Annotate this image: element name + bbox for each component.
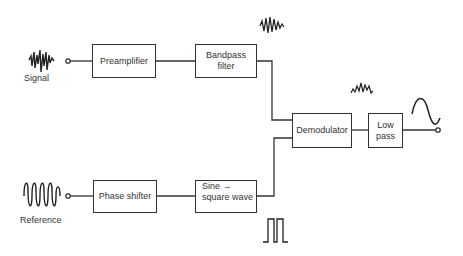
low-pass-label-line2: pass (376, 131, 395, 142)
low-pass-block[interactable]: Low pass (368, 113, 403, 148)
sine-square-label-line2: square wave (202, 192, 253, 203)
bandpass-label-line2: filter (217, 61, 234, 72)
wire-square-demodulator (257, 138, 292, 196)
square-pulse-waveform-icon (263, 219, 288, 242)
signal-input-terminal[interactable] (66, 59, 70, 63)
bandpass-filter-block[interactable]: Bandpass filter (195, 44, 257, 78)
noisy-signal-waveform-icon (29, 50, 54, 72)
sine-output-waveform-icon (412, 98, 440, 124)
demodulator-label: Demodulator (296, 125, 348, 136)
sine-to-square-block[interactable]: Sine → square wave (195, 180, 257, 213)
sine-square-label-line1: Sine → (202, 181, 232, 192)
reference-label: Reference (20, 215, 62, 225)
filtered-burst-waveform-icon (260, 17, 284, 33)
rectified-waveform-icon (351, 83, 373, 93)
output-terminal[interactable] (436, 128, 440, 132)
demodulator-block[interactable]: Demodulator (292, 113, 352, 148)
phase-shifter-label: Phase shifter (99, 191, 152, 202)
reference-input-terminal[interactable] (66, 194, 70, 198)
preamplifier-block[interactable]: Preamplifier (92, 44, 156, 78)
low-pass-label-line1: Low (377, 120, 394, 131)
bandpass-label-line1: Bandpass (206, 50, 246, 61)
signal-label: Signal (24, 73, 49, 83)
phase-shifter-block[interactable]: Phase shifter (93, 180, 157, 213)
sine-waveform-icon (24, 183, 60, 206)
preamplifier-label: Preamplifier (100, 56, 148, 67)
wire-bandpass-demodulator (257, 61, 292, 120)
